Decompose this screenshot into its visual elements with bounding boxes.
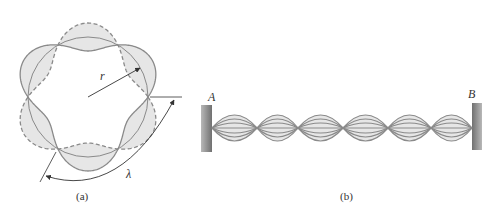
caption-b: (b) [340,190,353,202]
wavelength-label: λ [126,167,131,182]
extension-line-left [40,152,56,182]
wall-a [201,105,212,152]
lobe-fill [20,97,58,149]
end-label-b: B [468,87,475,102]
end-label-a: A [208,90,215,105]
radius-label: r [100,69,105,84]
standing-waves-figure [0,0,502,209]
lobe-fill [118,45,156,97]
wall-b [472,103,482,150]
lobe-fill [20,45,58,97]
lobe-fill [118,97,156,149]
radius-arrow [88,68,140,97]
figure-b-string-wave [201,103,482,152]
figure-a-circular-wave [20,23,182,182]
caption-a: (a) [76,190,88,202]
